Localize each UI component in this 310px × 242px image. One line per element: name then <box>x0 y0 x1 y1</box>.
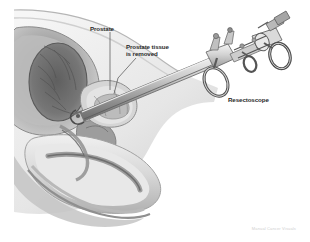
light-post-cap <box>228 28 233 33</box>
element-knob-b <box>252 38 256 42</box>
label-prostate: Prostate <box>90 25 114 32</box>
credit-line: Manual Cancer Visuals <box>252 226 296 231</box>
label-resectoscope: Resectoscope <box>228 96 269 103</box>
loop-electrode <box>76 114 80 118</box>
element-knob-a <box>240 44 244 48</box>
illustration-svg <box>14 6 296 228</box>
medical-illustration-figure: Prostate Prostate tissue is removed Rese… <box>0 0 310 242</box>
label-prostate-tissue-removed: Prostate tissue is removed <box>126 43 169 58</box>
anatomy-illustration-canvas <box>14 6 296 228</box>
stopcock-knob <box>213 33 218 38</box>
